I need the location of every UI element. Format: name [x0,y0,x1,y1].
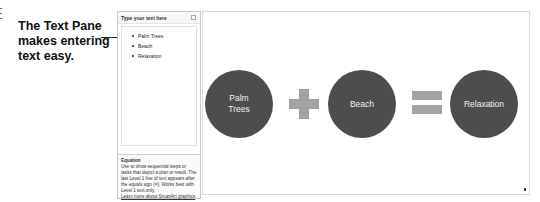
edge-marks [0,8,3,23]
close-icon[interactable] [191,15,196,20]
bullet-item-relaxation[interactable]: Relaxation [132,51,196,61]
shape-label: Beach [350,99,374,110]
shape-palm-trees[interactable]: Palm Trees [205,70,273,138]
smartart-canvas[interactable]: Palm Trees Beach Relaxation [202,11,530,195]
layout-description: Equation Use to show sequential steps or… [118,154,200,198]
text-pane-header: Type your text here [118,12,200,24]
shape-label: Relaxation [464,99,504,110]
bullet-item-palm-trees[interactable]: Palm Trees [132,31,196,41]
shape-relaxation[interactable]: Relaxation [450,70,518,138]
callout-text: The Text Pane makes entering text easy. [18,19,118,64]
text-pane: Type your text here Palm Trees Beach Rel… [117,11,201,199]
callout-line-3: text easy. [18,49,118,64]
text-pane-title: Type your text here [121,15,167,21]
bullet-item-beach[interactable]: Beach [132,41,196,51]
learn-more-link[interactable]: Learn more about SmartArt graphics [121,194,197,200]
callout-line-1: The Text Pane [18,19,118,34]
text-pane-bullet-list: Palm Trees Beach Relaxation [122,31,196,61]
layout-description-body: Use to show sequential steps or tasks th… [121,164,197,194]
shape-beach[interactable]: Beach [328,70,396,138]
resize-handle[interactable] [524,188,526,191]
text-pane-editor[interactable]: Palm Trees Beach Relaxation [121,26,197,146]
shape-label-line-2: Trees [228,104,249,115]
shape-label-line-1: Palm [228,93,249,104]
